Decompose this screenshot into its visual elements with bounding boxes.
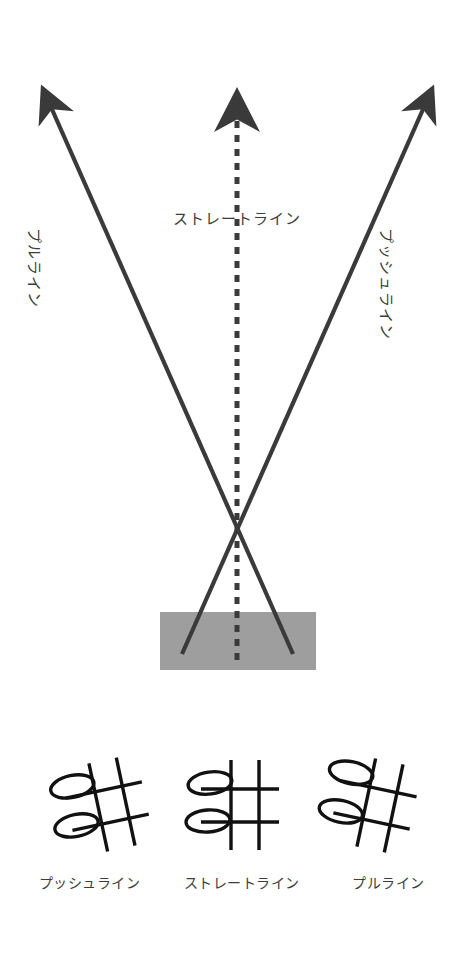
bottom-diagram-captions: プッシュライン ストレートライン プルライン xyxy=(0,872,473,892)
billiards-line-diagram xyxy=(0,0,473,963)
straight-line-grid xyxy=(185,760,279,850)
caption-push-line: プッシュライン xyxy=(25,872,155,892)
push-line-arrow xyxy=(182,89,432,654)
push-line-label: プッシュライン xyxy=(377,228,398,340)
caption-pull-line: プルライン xyxy=(329,872,449,892)
caption-straight-line: ストレートライン xyxy=(177,872,307,892)
pull-line-grid xyxy=(313,749,423,856)
straight-line-label: ストレートライン xyxy=(0,207,473,228)
pull-line-arrow xyxy=(43,89,293,654)
push-line-grid xyxy=(43,753,155,861)
pull-line-label: プルライン xyxy=(25,228,46,308)
figure-canvas: プルライン ストレートライン プッシュライン プッシュライン ストレートライン … xyxy=(0,0,473,963)
